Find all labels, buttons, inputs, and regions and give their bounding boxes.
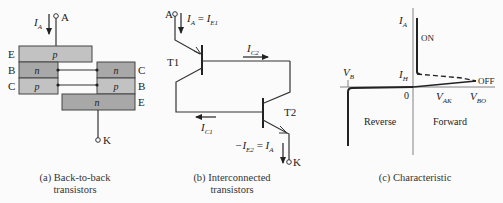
panel-b-interconnected: A IA = IE1 T1 T2 IC2 IC1 −IE2 = IA K (b)…	[165, 8, 301, 195]
forward-off-curve	[413, 81, 476, 87]
ih-label: IH	[398, 68, 409, 83]
layer-label: p	[52, 49, 58, 60]
on-state-curve	[417, 18, 420, 74]
cathode-label: K	[103, 134, 111, 146]
thyristor-figure: A IA p n p E B C n p n C B E K (a) Back-…	[0, 0, 503, 203]
forward-label: Forward	[433, 116, 467, 127]
t2-label: T2	[284, 106, 296, 118]
origin-label: 0	[404, 90, 409, 101]
vbo-label: VBO	[470, 90, 486, 105]
layer-label: n	[95, 97, 100, 108]
reverse-label: Reverse	[364, 116, 397, 127]
caption-b-line1: (b) Interconnected	[193, 172, 271, 184]
anode-terminal-icon	[173, 12, 178, 17]
negative-resistance-curve	[417, 74, 476, 81]
layer-label: n	[114, 65, 119, 76]
caption-b-line2: transistors	[210, 184, 253, 195]
ia-equals-ie1: IA = IE1	[186, 12, 218, 27]
off-label: OFF	[478, 76, 495, 86]
caption-c: (c) Characteristic	[379, 172, 452, 184]
terminal-label: B	[8, 64, 15, 76]
x-axis-label: VAK	[436, 90, 452, 105]
layer-label: p	[34, 81, 40, 92]
cathode-terminal-icon	[96, 138, 101, 143]
anode-label: A	[61, 11, 69, 23]
t1-collector-to-t2-base	[176, 68, 262, 112]
ia-label: IA	[33, 16, 43, 31]
t1-label: T1	[167, 56, 179, 68]
panel-a-back-to-back: A IA p n p E B C n p n C B E K (a) Back-…	[8, 11, 145, 195]
ie2-equals-ia: −IE2 = IA	[235, 139, 274, 154]
panel-c-characteristic: IA ON IH OFF VB 0 VAK VBO Reverse Forwar…	[340, 8, 495, 184]
vb-label: VB	[343, 66, 355, 81]
anode-terminal-icon	[54, 14, 59, 19]
cathode-terminal-icon	[287, 160, 292, 165]
caption-a-line2: transistors	[53, 184, 96, 195]
ic1-label: IC1	[200, 121, 213, 136]
terminal-label: C	[138, 64, 145, 76]
anode-label: A	[165, 8, 173, 20]
ic2-label: IC2	[246, 42, 259, 57]
terminal-label: C	[8, 80, 15, 92]
cathode-label: K	[293, 156, 301, 168]
terminal-label: E	[138, 96, 145, 108]
y-axis-label: IA	[398, 14, 408, 29]
terminal-label: E	[8, 48, 15, 60]
layer-label: p	[113, 81, 119, 92]
caption-a-line1: (a) Back-to-back	[40, 172, 112, 184]
on-label: ON	[421, 33, 434, 43]
terminal-label: B	[138, 80, 145, 92]
layer-label: n	[35, 65, 40, 76]
